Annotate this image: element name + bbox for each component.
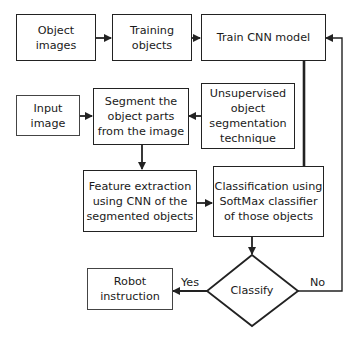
feature-extraction-label: Feature extraction using CNN of the segm… [87,179,194,224]
robot-instruction-label: Robot instruction [100,274,160,304]
segment-object-parts-label: Segment the object parts from the image [98,94,184,139]
robot-instruction-node: Robot instruction [87,268,173,310]
classify-label: Classify [222,284,282,298]
input-image-label: Input image [31,101,66,131]
feature-extraction-node: Feature extraction using CNN of the segm… [83,170,197,232]
object-images-label: Object images [36,23,77,53]
flowchart: Object images Training objects Train CNN… [0,0,357,337]
classification-softmax-label: Classification using SoftMax classifier … [215,179,323,224]
train-cnn-model-label: Train CNN model [217,30,310,45]
no-edge-label: No [310,276,325,290]
segment-object-parts-node: Segment the object parts from the image [93,88,189,145]
input-image-node: Input image [16,95,80,136]
training-objects-node: Training objects [112,14,192,61]
yes-edge-label: Yes [181,276,199,290]
object-images-node: Object images [16,14,96,61]
unsupervised-segmentation-node: Unsupervised object segmentation techniq… [201,83,295,149]
classification-softmax-node: Classification using SoftMax classifier … [213,166,324,237]
training-objects-label: Training objects [130,23,174,53]
unsupervised-segmentation-label: Unsupervised object segmentation techniq… [209,86,286,146]
train-cnn-model-node: Train CNN model [201,14,326,61]
